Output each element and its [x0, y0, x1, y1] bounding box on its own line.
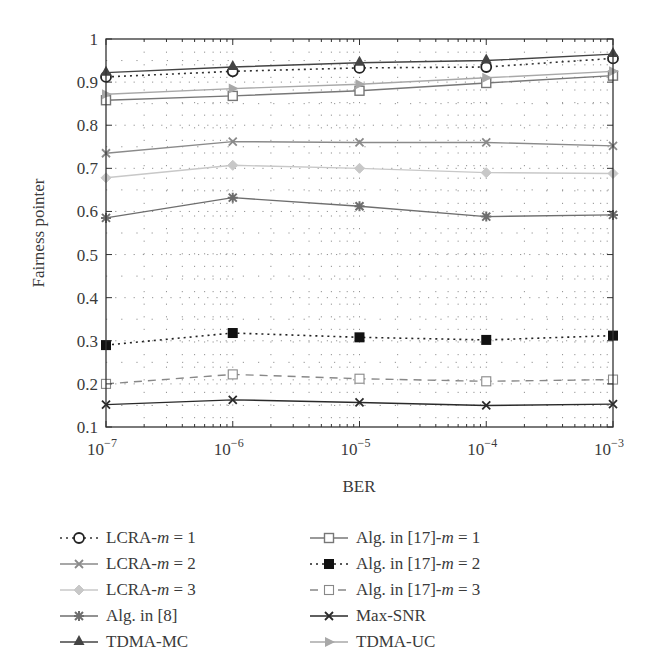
- series-alg-in-17-m-1: [102, 71, 618, 105]
- square-open-marker-icon: [355, 374, 364, 383]
- legend-item: LCRA-m = 2: [58, 551, 196, 577]
- legend-label: TDMA-MC: [106, 632, 188, 652]
- y-axis-title: Fairness pointer: [29, 178, 48, 287]
- series-alg-in-17-m-2: [101, 328, 618, 350]
- square-open-marker-icon: [228, 370, 237, 379]
- legend-swatch-icon: [58, 554, 100, 574]
- legend-item: Alg. in [17]-m = 1: [308, 525, 480, 551]
- square-open-marker-icon: [325, 586, 334, 595]
- legend-label: Alg. in [17]-m = 2: [356, 554, 480, 574]
- series-alg-in-17-m-3: [102, 370, 618, 388]
- x-tick-labels: 10−710−610−510−410−3: [87, 436, 624, 459]
- legend-swatch-icon: [58, 632, 100, 652]
- y-tick-label: 0.9: [77, 73, 98, 92]
- legend-label: LCRA-m = 2: [106, 554, 196, 574]
- star-marker-icon: [355, 201, 365, 211]
- legend-item: LCRA-m = 3: [58, 577, 196, 603]
- legend-item: Alg. in [8]: [58, 603, 177, 629]
- y-tick-label: 0.4: [77, 289, 99, 308]
- legend-label: Alg. in [17]-m = 3: [356, 580, 480, 600]
- legend-item: Alg. in [17]-m = 2: [308, 551, 480, 577]
- circle-open-marker-icon: [74, 533, 84, 543]
- triangle-up-marker-icon: [354, 56, 365, 66]
- y-tick-label: 1: [90, 30, 99, 49]
- diamond-marker-icon: [481, 168, 491, 178]
- legend-swatch-icon: [58, 606, 100, 626]
- square-filled-marker-icon: [481, 335, 491, 345]
- legend-swatch-icon: [308, 528, 350, 548]
- x-tick-label: 10−4: [467, 436, 497, 459]
- legend-label: LCRA-m = 1: [106, 528, 196, 548]
- y-tick-label: 0.3: [77, 332, 98, 351]
- triangle-right-marker-icon: [325, 637, 335, 647]
- y-tick-label: 0.5: [77, 246, 98, 265]
- y-tick-label: 0.2: [77, 375, 98, 394]
- triangle-up-marker-icon: [227, 60, 238, 70]
- legend-swatch-icon: [308, 580, 350, 600]
- star-marker-icon: [74, 611, 84, 621]
- triangle-up-marker-icon: [481, 54, 492, 64]
- legend-label: Max-SNR: [356, 606, 426, 626]
- square-filled-marker-icon: [355, 332, 365, 342]
- series-max-snr: [102, 396, 617, 410]
- legend-item: LCRA-m = 1: [58, 525, 196, 551]
- diamond-marker-icon: [228, 160, 238, 170]
- star-marker-icon: [481, 212, 491, 222]
- legend-swatch-icon: [308, 606, 350, 626]
- series-lcra-m-3: [101, 160, 618, 183]
- legend-label: LCRA-m = 3: [106, 580, 196, 600]
- triangle-up-marker-icon: [74, 635, 85, 645]
- square-filled-marker-icon: [324, 559, 334, 569]
- y-tick-label: 0.6: [77, 202, 98, 221]
- legend-swatch-icon: [308, 554, 350, 574]
- legend-label: Alg. in [17]-m = 1: [356, 528, 480, 548]
- legend-swatch-icon: [308, 632, 350, 652]
- legend-item: Max-SNR: [308, 603, 426, 629]
- legend-swatch-icon: [58, 580, 100, 600]
- legend-label: TDMA-UC: [356, 632, 435, 652]
- y-tick-label: 0.1: [77, 418, 98, 437]
- diamond-marker-icon: [355, 163, 365, 173]
- legend-swatch-icon: [58, 528, 100, 548]
- square-gray-marker-icon: [325, 534, 334, 543]
- x-tick-label: 10−6: [214, 436, 244, 459]
- y-tick-label: 0.8: [77, 116, 98, 135]
- x-tick-label: 10−7: [87, 436, 117, 459]
- y-tick-labels: 0.10.20.30.40.50.60.70.80.91: [77, 30, 99, 437]
- series-alg-in-8-: [101, 193, 618, 223]
- square-filled-marker-icon: [228, 328, 238, 338]
- legend-item: TDMA-MC: [58, 629, 188, 655]
- x-tick-label: 10−3: [594, 436, 624, 459]
- diamond-marker-icon: [74, 585, 84, 595]
- legend-label: Alg. in [8]: [106, 606, 177, 626]
- square-open-marker-icon: [482, 377, 491, 386]
- y-tick-label: 0.7: [77, 159, 99, 178]
- legend-item: TDMA-UC: [308, 629, 435, 655]
- x-tick-label: 10−5: [341, 436, 371, 459]
- x-axis-title: BER: [342, 477, 376, 496]
- legend: LCRA-m = 1LCRA-m = 2LCRA-m = 3Alg. in [8…: [58, 525, 518, 665]
- legend-item: Alg. in [17]-m = 3: [308, 577, 480, 603]
- star-marker-icon: [228, 193, 238, 203]
- chart: 0.10.20.30.40.50.60.70.80.91 10−710−610−…: [0, 0, 649, 520]
